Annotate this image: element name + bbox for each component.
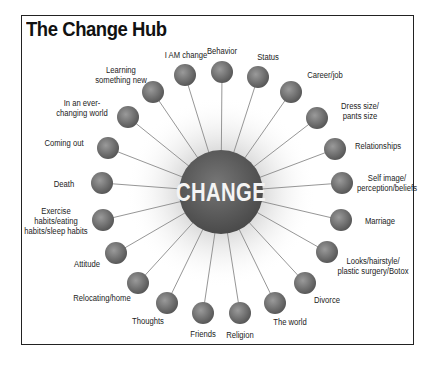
node-label: Behavior: [207, 46, 237, 56]
node-circle: [174, 64, 196, 86]
node-label: Self image/ perception/beliefs: [357, 173, 417, 193]
node-circle: [306, 107, 328, 129]
node-circle: [316, 241, 338, 263]
node-circle: [192, 302, 214, 324]
node-circle: [105, 242, 127, 264]
node-circle: [294, 272, 316, 294]
node-circle: [91, 172, 113, 194]
node-circle: [229, 302, 251, 324]
node-label: Relocating/home: [73, 293, 130, 303]
node-label: Death: [54, 179, 74, 189]
node-circle: [117, 106, 139, 128]
node-circle: [127, 272, 149, 294]
node-circle: [211, 61, 233, 83]
node-circle: [331, 172, 353, 194]
node-label: Friends: [190, 329, 216, 339]
node-label: Learning something new: [95, 65, 146, 85]
node-label: Career/job: [307, 70, 343, 80]
node-label: Divorce: [314, 295, 340, 305]
node-circle: [264, 292, 286, 314]
node-label: Attitude: [74, 259, 100, 269]
node-label: Status: [257, 52, 279, 62]
node-label: Exercise habits/eating habits/sleep habi…: [24, 206, 87, 236]
node-label: Thoughts: [132, 316, 164, 326]
node-circle: [280, 81, 302, 103]
hub-label: CHANGE: [176, 177, 266, 208]
node-label: Dress size/ pants size: [341, 101, 379, 121]
node-circle: [92, 209, 114, 231]
node-label: I AM change: [165, 50, 208, 60]
node-circle: [324, 138, 346, 160]
node-label: Marriage: [365, 216, 395, 226]
node-label: The world: [273, 317, 307, 327]
node-circle: [156, 292, 178, 314]
node-label: Religion: [226, 330, 254, 340]
node-label: Relationships: [355, 141, 401, 151]
node-circle: [330, 209, 352, 231]
node-circle: [247, 66, 269, 88]
node-label: In an ever- changing world: [56, 98, 107, 118]
node-label: Looks/hairstyle/ plastic surgery/Botox: [337, 256, 408, 276]
node-label: Coming out: [44, 138, 83, 148]
node-circle: [97, 137, 119, 159]
